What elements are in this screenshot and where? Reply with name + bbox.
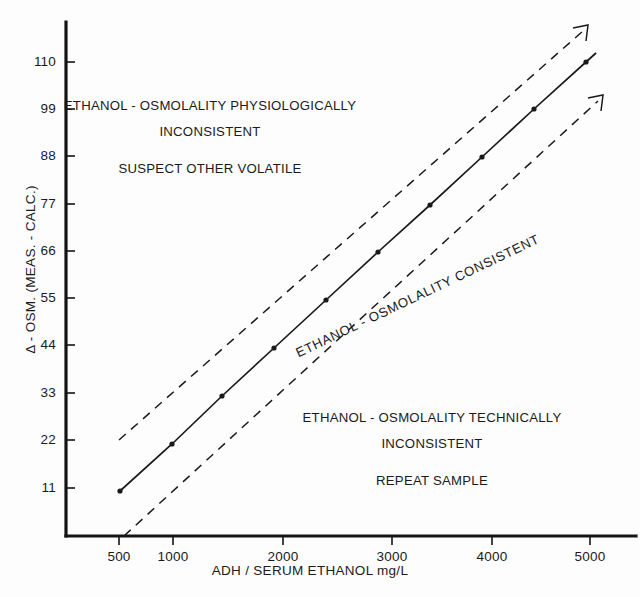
chart-figure: 110 99 88 77 66 55 44 33 22 11 500 1000 … bbox=[0, 0, 640, 597]
annotation-lower-zone: ETHANOL - OSMOLALITY TECHNICALLY INCONSI… bbox=[282, 405, 582, 456]
annotation-upper-zone: ETHANOL - OSMOLALITY PHYSIOLOGICALLY INC… bbox=[60, 93, 360, 144]
x-tick-label-4000: 4000 bbox=[462, 549, 522, 564]
annotation-lower-line-1: ETHANOL - OSMOLALITY TECHNICALLY bbox=[282, 405, 582, 431]
annotation-upper-action: SUSPECT OTHER VOLATILE bbox=[60, 156, 360, 182]
x-axis-label: ADH / SERUM ETHANOL mg/L bbox=[130, 563, 490, 578]
annotation-upper-line-2: INCONSISTENT bbox=[60, 119, 360, 145]
annotation-lower-action: REPEAT SAMPLE bbox=[282, 468, 582, 494]
x-tick-label-5000: 5000 bbox=[560, 549, 620, 564]
annotation-upper-line-1: ETHANOL - OSMOLALITY PHYSIOLOGICALLY bbox=[60, 93, 360, 119]
y-tick-label-99: 99 bbox=[12, 101, 56, 116]
annotation-lower-line-2: INCONSISTENT bbox=[282, 431, 582, 457]
x-tick-label-3000: 3000 bbox=[362, 549, 422, 564]
x-tick-label-500: 500 bbox=[89, 549, 149, 564]
y-tick-label-22: 22 bbox=[12, 432, 56, 447]
y-tick-label-110: 110 bbox=[12, 54, 56, 69]
y-tick-label-11: 11 bbox=[12, 480, 56, 495]
plot-canvas bbox=[0, 0, 640, 597]
x-tick-label-1000: 1000 bbox=[143, 549, 203, 564]
y-axis-label: Δ - OSM. (MEAS. - CALC.) bbox=[23, 160, 38, 380]
y-tick-label-33: 33 bbox=[12, 385, 56, 400]
x-tick-label-2000: 2000 bbox=[253, 549, 313, 564]
